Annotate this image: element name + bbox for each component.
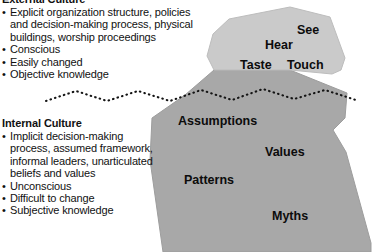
list-item: • Conscious xyxy=(2,43,198,55)
iceberg-diagram: External Culture • Explicit organization… xyxy=(0,0,377,252)
list-item: • Explicit organization structure, polic… xyxy=(2,6,198,43)
bullet-icon: • xyxy=(2,6,6,18)
iceberg-label-see: See xyxy=(297,23,319,37)
iceberg-label-myths: Myths xyxy=(272,209,308,223)
internal-culture-bullet-list: • Implicit decision-making process, assu… xyxy=(2,130,162,217)
bullet-icon: • xyxy=(2,43,6,55)
list-item-label: Difficult to change xyxy=(10,192,94,204)
bullet-icon: • xyxy=(2,192,6,204)
iceberg-label-patterns: Patterns xyxy=(184,173,234,187)
iceberg-label-values: Values xyxy=(265,145,305,159)
list-item: • Implicit decision-making process, assu… xyxy=(2,130,162,180)
list-item-label: Easily changed xyxy=(10,56,83,68)
internal-culture-heading: Internal Culture xyxy=(2,117,162,129)
bullet-icon: • xyxy=(2,180,6,192)
list-item-label: Unconscious xyxy=(10,180,71,192)
external-culture-bullet-list: • Explicit organization structure, polic… xyxy=(2,6,198,80)
list-item-label: Implicit decision-making process, assume… xyxy=(10,130,153,179)
iceberg-submerged-body xyxy=(150,70,371,252)
bullet-icon: • xyxy=(2,204,6,216)
bullet-icon: • xyxy=(2,56,6,68)
iceberg-label-touch: Touch xyxy=(287,58,324,72)
bullet-icon: • xyxy=(2,68,6,80)
list-item: • Objective knowledge xyxy=(2,68,198,80)
list-item: • Difficult to change xyxy=(2,192,162,204)
list-item-label: Subjective knowledge xyxy=(10,204,113,216)
bullet-icon: • xyxy=(2,130,6,142)
iceberg-label-assumptions: Assumptions xyxy=(178,114,257,128)
list-item-label: Explicit organization structure, policie… xyxy=(10,6,193,43)
list-item: • Subjective knowledge xyxy=(2,204,162,216)
external-culture-panel: External Culture • Explicit organization… xyxy=(2,0,198,80)
internal-culture-panel: Internal Culture • Implicit decision-mak… xyxy=(2,117,162,217)
iceberg-label-hear: Hear xyxy=(265,38,293,52)
iceberg-label-taste: Taste xyxy=(240,58,272,72)
external-culture-heading: External Culture xyxy=(2,0,198,5)
list-item-label: Conscious xyxy=(10,43,60,55)
list-item: • Easily changed xyxy=(2,56,198,68)
list-item-label: Objective knowledge xyxy=(10,68,109,80)
list-item: • Unconscious xyxy=(2,180,162,192)
